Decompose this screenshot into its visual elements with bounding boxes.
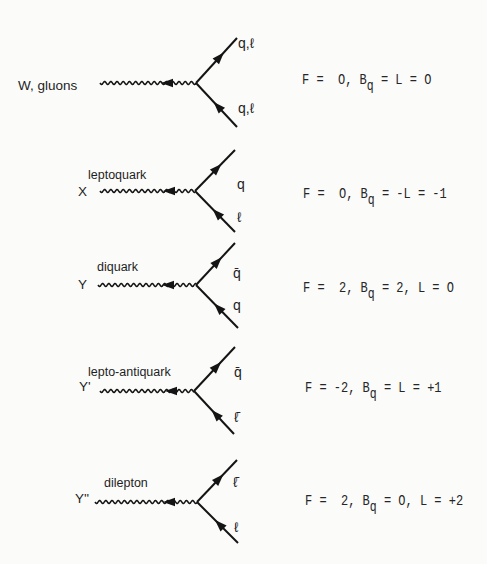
boson-wavy-line	[98, 284, 196, 287]
equation-main: F = 2, B	[303, 279, 368, 296]
boson-arrow-left-icon	[162, 281, 174, 290]
upper-fermion-label: q,ℓ	[238, 36, 254, 50]
equation-subscript: q	[368, 286, 375, 302]
equation-main: F = 2, B	[305, 492, 370, 509]
lower-fermion-label: ℓ̄	[234, 410, 239, 424]
lower-fermion-label: q,ℓ	[238, 101, 254, 115]
upper-fermion-label: q	[237, 177, 245, 191]
upper-fermion-label: q̄	[233, 266, 241, 280]
vertex-diagram-x-leptoquark	[100, 150, 235, 232]
boson-type-label: lepto-antiquark	[88, 366, 171, 379]
boson-arrow-left-icon	[165, 387, 177, 396]
quantum-numbers-equation: F = O, Bq = L = O	[302, 73, 431, 88]
equation-main: F = O, B	[303, 185, 368, 202]
boson-type-label: leptoquark	[88, 169, 146, 182]
equation-subscript: q	[370, 386, 377, 402]
boson-label: Y'	[79, 380, 91, 394]
lower-fermion-label: ℓ	[237, 210, 242, 224]
equation-rest: = O, L = +2	[377, 492, 463, 509]
equation-subscript: q	[370, 499, 377, 515]
boson-arrow-left-icon	[163, 187, 175, 196]
feynman-vertex-figure: W, gluons q,ℓ q,ℓ F = O, Bq = L = O X le…	[0, 0, 487, 564]
equation-rest: = L = O	[374, 71, 432, 88]
boson-label: Y''	[75, 492, 89, 506]
equation-subscript: q	[368, 192, 375, 208]
upper-fermion-label: ℓ̄	[233, 475, 238, 489]
boson-arrow-left-icon	[163, 498, 175, 507]
boson-label: X	[78, 185, 87, 199]
boson-arrow-left-icon	[161, 79, 173, 88]
lower-fermion-label: ℓ	[234, 520, 239, 534]
equation-rest: = -L = -1	[375, 185, 447, 202]
boson-wavy-line	[100, 82, 196, 85]
quantum-numbers-equation: F = 2, Bq = 2, L = O	[303, 281, 454, 296]
boson-wavy-line	[100, 390, 194, 393]
boson-wavy-line	[100, 190, 195, 193]
upper-fermion-label: q̄	[234, 365, 242, 379]
lower-fermion-label: q	[233, 298, 241, 312]
equation-rest: = L = +1	[377, 379, 442, 396]
boson-label: Y	[78, 278, 87, 292]
equation-subscript: q	[367, 78, 374, 94]
quantum-numbers-equation: F = 2, Bq = O, L = +2	[305, 494, 463, 509]
quantum-numbers-equation: F = -2, Bq = L = +1	[305, 381, 442, 396]
vertex-diagram-y-prime-lepto-antiquark	[100, 347, 235, 434]
boson-type-label: diquark	[97, 261, 138, 274]
vertex-diagram-y-double-prime-dilepton	[95, 460, 238, 543]
equation-main: F = -2, B	[305, 379, 370, 396]
equation-rest: = 2, L = O	[375, 279, 454, 296]
boson-label: W, gluons	[18, 79, 77, 93]
vertex-diagram-y-diquark	[98, 243, 238, 328]
quantum-numbers-equation: F = O, Bq = -L = -1	[303, 187, 447, 202]
vertex-diagram-w-gluons	[100, 38, 237, 127]
boson-type-label: dilepton	[104, 477, 148, 490]
equation-main: F = O, B	[302, 71, 367, 88]
boson-wavy-line	[95, 501, 197, 504]
